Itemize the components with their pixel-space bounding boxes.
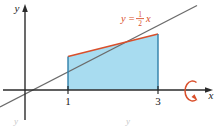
ghost-label-center: y bbox=[125, 116, 130, 126]
function-label-variable: x bbox=[145, 13, 151, 24]
ghost-label-left: y bbox=[13, 116, 18, 126]
function-label-y: y bbox=[120, 13, 126, 24]
function-label-denominator: 2 bbox=[138, 19, 142, 28]
figure-container: 1 3 x y y = 1 2 x y y bbox=[0, 0, 221, 126]
graph-canvas: 1 3 x y y = 1 2 x y y bbox=[0, 0, 221, 126]
x-tick-label-3: 3 bbox=[155, 95, 161, 107]
y-axis-arrowhead bbox=[22, 4, 28, 12]
function-label-equals: = bbox=[128, 13, 135, 24]
rotation-arrowhead bbox=[192, 94, 198, 100]
rotation-arrow-icon bbox=[185, 81, 197, 101]
function-label-group: y = 1 2 x bbox=[120, 10, 151, 28]
shaded-area-region bbox=[68, 34, 158, 90]
y-axis-label: y bbox=[14, 2, 20, 14]
x-axis-label: x bbox=[208, 89, 214, 101]
function-line-extension bbox=[0, 6, 197, 108]
x-tick-label-1: 1 bbox=[65, 95, 71, 107]
